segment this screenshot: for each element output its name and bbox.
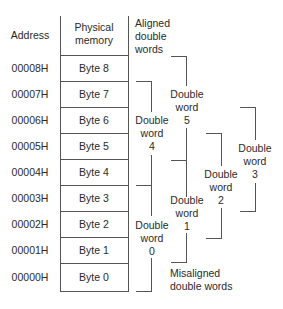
double-word-5-label: Double word 5 <box>165 88 209 127</box>
dw4-number: 4 <box>130 140 174 153</box>
dw5-number: 5 <box>165 114 209 127</box>
dw1-line1: Double <box>165 194 209 207</box>
dw2-line2: word <box>199 181 243 194</box>
misaligned-label-line1: Misaligned <box>170 267 220 280</box>
misaligned-label-line2: double words <box>170 280 232 293</box>
dw3-line1: Double <box>233 142 277 155</box>
dw5-line1: Double <box>165 88 209 101</box>
dw2-line1: Double <box>199 168 243 181</box>
double-word-0-label: Double word 0 <box>130 219 174 258</box>
dw0-line1: Double <box>130 219 174 232</box>
dw5-line2: word <box>165 101 209 114</box>
dw4-line2: word <box>130 127 174 140</box>
dw0-number: 0 <box>130 245 174 258</box>
dw3-line2: word <box>233 155 277 168</box>
dw0-line2: word <box>130 232 174 245</box>
